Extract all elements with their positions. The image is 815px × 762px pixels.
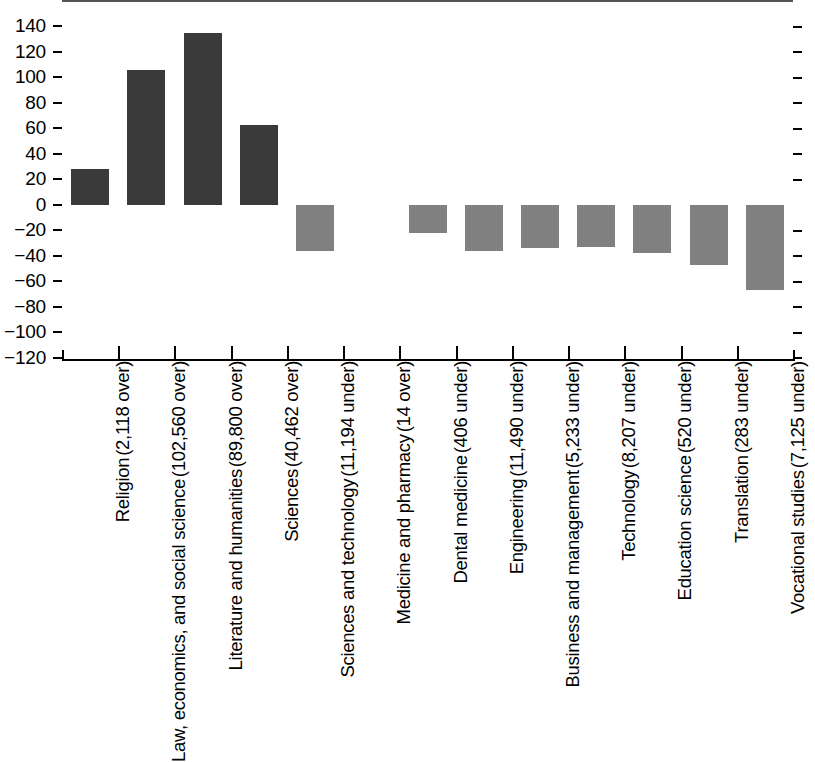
category-name: Literature and humanities [225, 469, 246, 670]
y-axis-tick-label: 80 [25, 93, 46, 112]
category-name: Medicine and pharmacy [393, 434, 414, 624]
bar [127, 70, 165, 205]
category-name: Engineering [506, 479, 527, 574]
category-count: (283 under) [731, 361, 752, 453]
y-axis-tick-label: −60 [14, 271, 46, 290]
bar [296, 205, 334, 251]
bar [71, 169, 109, 205]
x-axis-tick-mark [737, 346, 739, 360]
x-axis-category-label: Engineering(11,490 under) [506, 361, 550, 643]
x-axis-category-label: Medicine and pharmacy(14 over) [393, 361, 437, 643]
category-count: (520 under) [674, 361, 695, 453]
category-name: Dental medicine [450, 455, 471, 583]
y-axis-tick-label: −20 [14, 220, 46, 239]
x-axis-tick-mark [343, 346, 345, 360]
bar [521, 205, 559, 248]
y-axis-tick-mark [53, 178, 62, 180]
category-name: Religion [112, 458, 133, 522]
x-axis-tick-mark [568, 346, 570, 360]
bar [184, 33, 222, 205]
y-axis-tick-mark [53, 331, 62, 333]
y-axis-tick-mark [53, 25, 62, 27]
x-axis-tick-mark [624, 346, 626, 360]
y-axis-tick-label: 0 [36, 195, 46, 214]
category-name: Business and management [562, 470, 583, 687]
bar [465, 205, 503, 251]
bar [690, 205, 728, 265]
x-axis-category-label: Business and management(5,233 under) [562, 361, 606, 643]
y-axis-tick-mark [53, 76, 62, 78]
bar [633, 205, 671, 253]
y-axis-right-tick-mark [793, 255, 802, 257]
plot-area [62, 0, 793, 360]
category-count: (11,490 under) [506, 361, 527, 477]
y-axis-tick-mark [53, 102, 62, 104]
y-axis-right-tick-mark [793, 51, 802, 53]
y-axis-right-ticks [793, 0, 815, 360]
bar [240, 125, 278, 205]
x-axis-tick-mark [174, 346, 176, 360]
y-axis-right-tick-mark [793, 128, 802, 130]
category-count: (406 under) [450, 361, 471, 453]
category-name: Sciences [281, 469, 302, 542]
y-axis-tick-mark [53, 51, 62, 53]
x-axis-tick-mark [681, 346, 683, 360]
category-count: (2,118 over) [112, 361, 133, 456]
y-axis-tick-mark [53, 204, 62, 206]
x-axis-tick-mark [456, 346, 458, 360]
x-axis-end-cap [793, 350, 795, 361]
x-axis-category-label: Literature and humanities(89,800 over) [225, 361, 269, 643]
y-axis: 140120100806040200−20−40−60−80−100−120 [0, 0, 62, 360]
category-name: Sciences and technology [337, 479, 358, 678]
x-axis-category-label: Translation(283 under) [731, 361, 775, 643]
x-axis-tick-mark [231, 346, 233, 360]
y-axis-tick-mark [53, 306, 62, 308]
x-axis-category-label: Sciences and technology(11,194 under) [337, 361, 381, 643]
x-axis-category-label: Education science(520 under) [674, 361, 718, 643]
category-name: Translation [731, 455, 752, 543]
x-axis-tick-mark [287, 346, 289, 360]
bar [577, 205, 615, 247]
y-axis-tick-mark [53, 153, 62, 155]
category-name: Vocational studies [787, 470, 808, 614]
x-axis-labels: Religion(2,118 over)Law, economics, and … [62, 361, 795, 643]
x-axis-category-label: Vocational studies(7,125 under) [787, 361, 815, 643]
y-axis-tick-mark [53, 229, 62, 231]
y-axis-right-tick-mark [793, 230, 802, 232]
bar [746, 205, 784, 290]
y-axis-tick-mark [53, 255, 62, 257]
y-axis-right-tick-mark [793, 102, 802, 104]
category-count: (11,194 under) [337, 361, 358, 477]
y-axis-right-tick-mark [793, 306, 802, 308]
x-axis-tick-mark [399, 346, 401, 360]
category-count: (40,462 over) [281, 361, 302, 467]
y-axis-right-tick-mark [793, 77, 802, 79]
category-count: (102,560 over) [168, 361, 189, 477]
x-axis-category-label: Sciences(40,462 over) [281, 361, 325, 643]
y-axis-tick-mark [53, 357, 62, 359]
y-axis-tick-label: −80 [14, 297, 46, 316]
y-axis-tick-mark [53, 280, 62, 282]
category-name: Law, economics, and social science [168, 479, 189, 762]
x-axis-tick-mark [512, 346, 514, 360]
y-axis-tick-label: 140 [15, 16, 46, 35]
x-axis-tick-mark [118, 346, 120, 360]
category-count: (89,800 over) [225, 361, 246, 467]
y-axis-tick-label: −40 [14, 246, 46, 265]
y-axis-tick-label: 120 [15, 42, 46, 61]
x-axis-end-cap [62, 350, 64, 361]
y-axis-tick-mark [53, 127, 62, 129]
y-axis-tick-label: 40 [25, 144, 46, 163]
y-axis-right-tick-mark [793, 281, 802, 283]
y-axis-tick-label: −120 [4, 348, 46, 367]
y-axis-right-tick-mark [793, 179, 802, 181]
x-axis-category-label: Religion(2,118 over) [112, 361, 156, 643]
category-count: (8,207 under) [618, 361, 639, 468]
bar [409, 205, 447, 233]
category-count: (5,233 under) [562, 361, 583, 468]
y-axis-tick-label: 20 [25, 169, 46, 188]
y-axis-right-tick-mark [793, 153, 802, 155]
x-axis-category-label: Technology(8,207 under) [618, 361, 662, 643]
y-axis-tick-label: 60 [25, 118, 46, 137]
